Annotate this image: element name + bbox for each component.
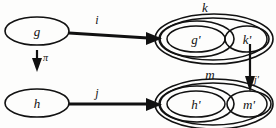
container-k-label: k [202, 0, 208, 15]
edge-j-group: j [69, 86, 162, 111]
node-hprime-label: h' [191, 97, 201, 112]
node-gprime-label: g' [191, 32, 201, 47]
container-k-outer-ellipse [155, 14, 273, 64]
container-m-label: m [205, 67, 214, 82]
edge-j-label: j [93, 86, 99, 100]
commutative-diagram-svg: g h g' k' k h' m' [0, 0, 276, 128]
node-g-label: g [34, 24, 41, 39]
container-k-group: g' k' k [155, 0, 273, 64]
edge-pi-arrowhead [32, 58, 42, 72]
node-mprime-label: m' [243, 97, 255, 112]
edge-pi-label: π [43, 52, 49, 63]
node-g-group: g [5, 17, 69, 45]
edge-jprime-label: j' [252, 74, 260, 85]
diagram-canvas: g h g' k' k h' m' [0, 0, 276, 128]
node-h-label: h [34, 96, 41, 111]
edge-i-group: i [69, 13, 162, 45]
edge-i-label: i [95, 13, 98, 27]
edge-pi-group: π [32, 50, 49, 72]
edge-i-line [69, 33, 148, 38]
node-h-group: h [5, 89, 69, 117]
